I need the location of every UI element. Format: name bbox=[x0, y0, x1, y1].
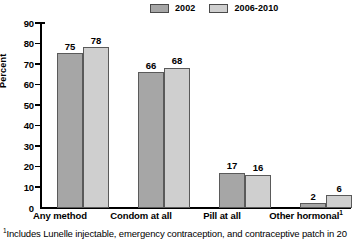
bar-label-condom-at-all-2006-2010: 68 bbox=[164, 56, 190, 66]
legend-label-2006-2010: 2006-2010 bbox=[234, 4, 278, 13]
y-tick-label-10: 10 bbox=[0, 183, 34, 193]
x-category-label-any-method: Any method bbox=[22, 211, 98, 221]
x-category-text-condom-at-all: Condom at all bbox=[110, 210, 172, 221]
x-category-text-any-method: Any method bbox=[33, 210, 87, 221]
x-category-text-pill-at-all: Pill at all bbox=[203, 210, 240, 221]
y-tick-label-20: 20 bbox=[0, 162, 34, 172]
bar-label-pill-at-all-2002: 17 bbox=[219, 161, 245, 171]
bar-other-hormonal-2002 bbox=[300, 203, 326, 207]
bar-label-pill-at-all-2006-2010: 16 bbox=[245, 163, 271, 173]
legend-entry-2002: 2002 bbox=[150, 4, 195, 13]
bar-label-other-hormonal-2006-2010: 6 bbox=[326, 184, 352, 194]
bar-condom-at-all-2002 bbox=[138, 72, 164, 208]
y-tick-label-80: 80 bbox=[0, 39, 34, 49]
bar-label-any-method-2002: 75 bbox=[57, 42, 83, 52]
bars-layer: 75 78 66 68 17 16 2 6 bbox=[40, 22, 351, 208]
chart-legend: 2002 2006-2010 bbox=[150, 2, 278, 14]
x-category-label-other-hormonal: Other hormonal1 bbox=[263, 211, 349, 221]
bar-condom-at-all-2006-2010 bbox=[164, 68, 190, 208]
bar-other-hormonal-2006-2010 bbox=[326, 195, 352, 207]
bar-label-condom-at-all-2002: 66 bbox=[138, 61, 164, 71]
bar-pill-at-all-2002 bbox=[219, 173, 245, 208]
bar-any-method-2002 bbox=[57, 53, 83, 207]
bar-any-method-2006-2010 bbox=[83, 47, 109, 207]
y-tick-label-90: 90 bbox=[0, 19, 34, 29]
y-tick-label-30: 30 bbox=[0, 142, 34, 152]
plot-area: 75 78 66 68 17 16 2 6 bbox=[40, 22, 351, 208]
x-category-footnote-marker-other-hormonal: 1 bbox=[339, 209, 343, 216]
chart-footnote: 1Includes Lunelle injectable, emergency … bbox=[3, 229, 347, 239]
x-category-label-condom-at-all: Condom at all bbox=[103, 211, 179, 221]
legend-swatch-2002-icon bbox=[150, 4, 169, 13]
x-category-text-other-hormonal: Other hormonal bbox=[269, 210, 339, 221]
x-category-label-pill-at-all: Pill at all bbox=[184, 211, 260, 221]
legend-entry-2006-2010: 2006-2010 bbox=[209, 4, 278, 13]
bar-label-any-method-2006-2010: 78 bbox=[83, 36, 109, 46]
y-tick-label-40: 40 bbox=[0, 121, 34, 131]
y-tick-label-50: 50 bbox=[0, 101, 34, 111]
footnote-text: Includes Lunelle injectable, emergency c… bbox=[6, 228, 346, 239]
bar-label-other-hormonal-2002: 2 bbox=[300, 192, 326, 202]
y-axis-title: Percent bbox=[0, 54, 8, 88]
bar-pill-at-all-2006-2010 bbox=[245, 175, 271, 208]
legend-swatch-2006-2010-icon bbox=[209, 4, 228, 13]
legend-label-2002: 2002 bbox=[175, 4, 195, 13]
